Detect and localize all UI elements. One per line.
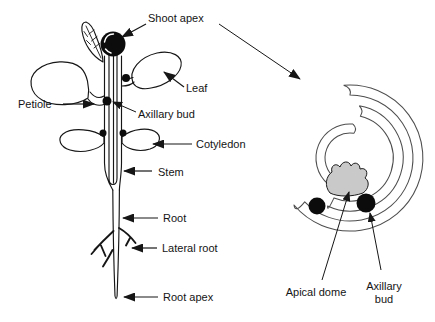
seedling-labels: Shoot apex Leaf Petiole Axillary bud Cot… [18,12,246,303]
label-section-axillary-line2: bud [375,293,393,305]
label-petiole: Petiole [18,98,52,110]
axillary-bud-dot-upper [122,74,130,82]
plant-anatomy-figure: Shoot apex Leaf Petiole Axillary bud Cot… [0,0,435,322]
label-leaf: Leaf [186,82,208,94]
leaf-right-outline [132,52,181,89]
section-pointer-arrow [219,24,300,79]
leaf-left-petiole [88,92,105,105]
diagram-canvas: Shoot apex Leaf Petiole Axillary bud Cot… [0,0,435,322]
seedling-drawing [31,22,181,299]
shoot-apex-bud [101,32,126,57]
cotyledon-right-outline [122,129,159,150]
apical-dome-shape [326,162,368,196]
label-root: Root [163,212,186,224]
cotyledon-left-outline [60,130,104,152]
label-stem: Stem [158,166,184,178]
section-bud-dot-right [357,194,376,213]
stem-outline [105,50,122,190]
leaf-arrow [164,72,184,87]
axillary-bud-dot-cotyledon-right [120,130,127,137]
section-bud-dot-left [309,198,326,215]
root-outline [113,190,120,299]
shoot-apex-cross-section: Apical dome Axillary bud [286,85,423,305]
label-root-apex: Root apex [163,291,214,303]
label-shoot-apex: Shoot apex [148,12,204,24]
axillary-bud-dot-cotyledon-left [100,130,107,137]
label-section-axillary-line1: Axillary [366,280,402,292]
section-axillary-bud-leader [370,213,381,270]
apical-dome-leader [322,192,349,280]
label-axillary-bud: Axillary bud [138,108,195,120]
shoot-apex-arrow [122,24,146,37]
label-apical-dome: Apical dome [286,286,347,298]
label-cotyledon: Cotyledon [196,138,246,150]
label-lateral-root: Lateral root [162,242,218,254]
axillary-bud-dot-left [103,97,112,106]
